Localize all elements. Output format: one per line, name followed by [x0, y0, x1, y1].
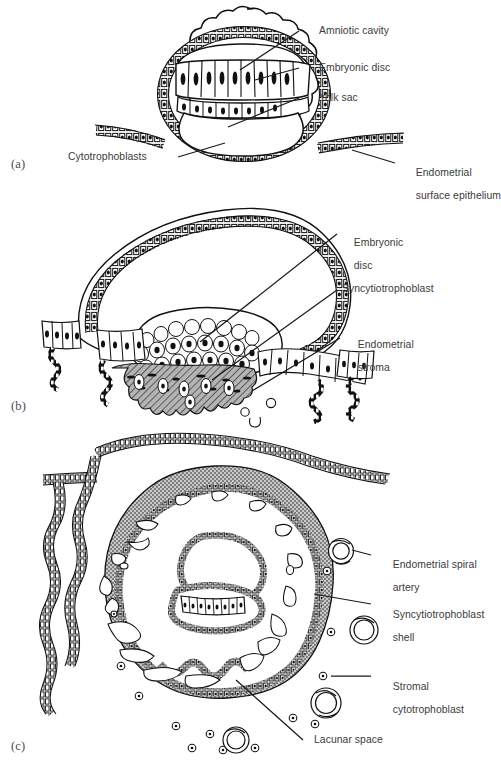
- syncytiotrophoblast-b: [112, 364, 257, 416]
- yolk-sac-shape: [179, 113, 303, 156]
- embryonic-vesicle-c: [171, 535, 263, 631]
- label-line-1: Syncytiotrophoblast: [393, 609, 485, 620]
- label-line-2: stroma: [358, 362, 390, 373]
- spiral-artery-1: [329, 539, 354, 565]
- label-line-1: Stromal: [393, 681, 429, 692]
- label-syncytiotrophoblast: Syncytiotrophoblast: [342, 283, 434, 295]
- label-cytotrophoblasts: Cytotrophoblasts: [68, 151, 147, 163]
- label-lacunar-space: Lacunar space: [314, 734, 383, 746]
- panel-letter-b: (b): [11, 399, 26, 414]
- label-line-1: Embryonic: [354, 237, 404, 248]
- leader-endometrial-spiral-artery: [352, 550, 371, 555]
- label-line-1: Endometrial: [358, 339, 414, 350]
- panel-letter-a: (a): [11, 157, 25, 172]
- label-line-1: Endometrial spiral: [393, 559, 477, 570]
- label-amniotic-cavity: Amniotic cavity: [319, 25, 389, 37]
- endometrial-epithelium-b-farleft: [42, 321, 81, 390]
- spiral-artery-4: [223, 727, 249, 753]
- label-line-2: shell: [393, 632, 415, 643]
- label-syncytiotrophoblast-shell: Syncytiotrophoblast shell: [381, 597, 484, 655]
- leader-endometrial-surface-epithelium: [352, 150, 395, 163]
- label-endometrial-stroma: Endometrial stroma: [346, 327, 414, 385]
- spiral-artery-3: [311, 688, 341, 718]
- endometrial-glands-c: [39, 456, 101, 714]
- label-yolk-sac: Yolk sac: [319, 92, 358, 104]
- panel-b-diagram: [0, 190, 499, 420]
- label-line-2: disc: [354, 260, 373, 271]
- label-line-1: Endometrial: [416, 167, 472, 178]
- label-embryonic-disc-b: Embryonic disc: [342, 225, 403, 283]
- embryonic-disc-shape: [176, 60, 310, 121]
- label-stromal-cytotrophoblast: Stromal cytotrophoblast: [381, 669, 464, 727]
- endometrial-epithelium-right: [318, 133, 404, 153]
- spiral-artery-2: [350, 616, 378, 644]
- panel-letter-c: (c): [11, 739, 25, 754]
- endometrial-epithelium-left: [95, 125, 165, 148]
- label-line-2: cytotrophoblast: [393, 704, 464, 715]
- label-line-2: artery: [393, 582, 420, 593]
- label-embryonic-disc-a: Embryonic disc: [319, 62, 390, 74]
